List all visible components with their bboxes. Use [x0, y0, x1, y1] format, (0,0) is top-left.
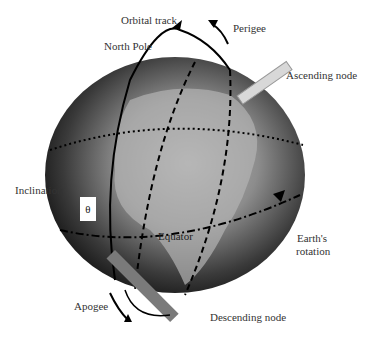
north-pole-label: North Pole	[104, 40, 152, 53]
orbital-track-label: Orbital track	[121, 14, 177, 27]
orbit-diagram: Orbital track Perigee North Pole Ascendi…	[0, 0, 367, 340]
equator-label: Equator	[158, 230, 193, 243]
earths-rotation-label-line1: Earth's	[297, 232, 327, 245]
perigee-label: Perigee	[233, 22, 266, 35]
ascending-node-label: Ascending node	[286, 69, 357, 82]
inclination-label: Inclination	[15, 184, 63, 197]
apogee-arrow-icon	[110, 293, 128, 320]
apogee-label: Apogee	[74, 300, 108, 313]
theta-symbol: θ	[80, 197, 96, 221]
descending-node-label: Descending node	[210, 311, 286, 324]
earths-rotation-label-line2: rotation	[296, 245, 330, 258]
globe-illustration	[0, 0, 367, 340]
